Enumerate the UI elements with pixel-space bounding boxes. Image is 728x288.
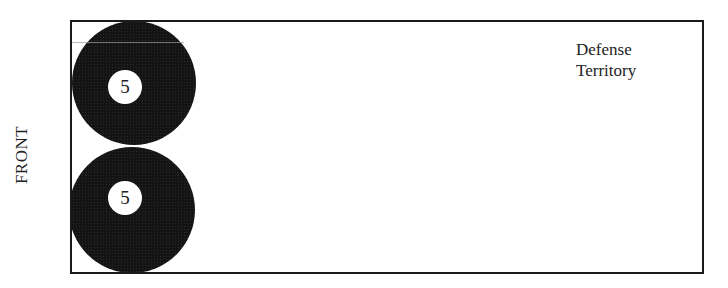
- territory-label-line2: Territory: [576, 60, 636, 81]
- front-label: FRONT: [12, 126, 32, 184]
- field-line: [72, 42, 184, 43]
- player-number-badge-top: 5: [108, 70, 142, 104]
- player-number-badge-bottom: 5: [108, 181, 142, 215]
- territory-label-line1: Defense: [576, 39, 632, 60]
- defense-field: 5 5 Defense Territory: [70, 20, 704, 274]
